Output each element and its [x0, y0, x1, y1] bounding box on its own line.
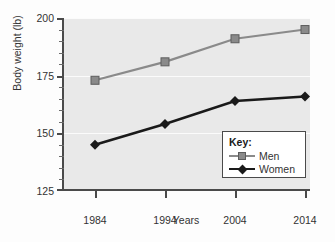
chart-page: 200 175 150 125 Body weight (lb) — [0, 0, 335, 242]
y-tick-label: 175 — [36, 70, 54, 82]
legend-item-women: Women — [229, 162, 300, 175]
y-major-tick — [57, 189, 64, 191]
data-point-square — [91, 76, 99, 84]
data-point-diamond — [230, 96, 240, 106]
series-men — [91, 26, 309, 85]
y-major-tick — [57, 18, 64, 20]
legend-title: Key: — [229, 136, 300, 148]
y-major-tick — [57, 76, 64, 78]
data-point-diamond — [90, 140, 100, 150]
data-point-square — [231, 35, 239, 43]
data-point-square — [301, 26, 309, 34]
y-axis-tick-labels: 200 175 150 125 — [0, 18, 58, 191]
legend: Key: Men Women — [222, 131, 306, 178]
legend-item-men: Men — [229, 149, 300, 162]
data-point-diamond — [300, 91, 310, 101]
legend-label-men: Men — [259, 150, 279, 162]
legend-swatch-men — [229, 150, 255, 162]
y-tick-label: 200 — [36, 12, 54, 24]
square-marker-icon — [238, 152, 246, 160]
y-axis-title: Body weight (lb) — [11, 0, 23, 128]
series-line — [95, 30, 305, 81]
y-major-tick — [57, 133, 64, 135]
diamond-marker-icon — [238, 164, 248, 174]
legend-label-women: Women — [259, 163, 295, 175]
x-major-tick — [95, 191, 97, 198]
x-major-tick — [165, 191, 167, 198]
data-point-square — [161, 58, 169, 66]
x-axis-title: Years — [62, 214, 310, 226]
legend-swatch-women — [229, 163, 255, 175]
x-major-tick — [305, 191, 307, 198]
y-tick-label: 125 — [36, 185, 54, 197]
y-tick-label: 150 — [36, 127, 54, 139]
x-major-tick — [235, 191, 237, 198]
data-point-diamond — [160, 119, 170, 129]
